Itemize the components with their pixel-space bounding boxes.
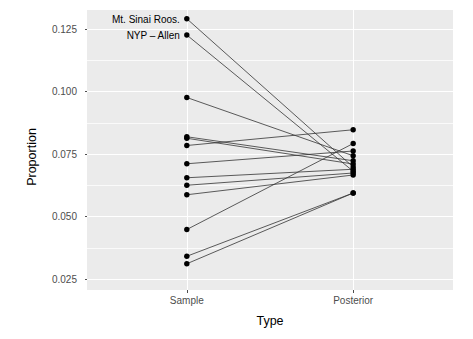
data-point-sample-7 <box>184 175 189 180</box>
slope-segment-8 <box>187 173 353 185</box>
slope-segment-0 <box>187 19 353 167</box>
annotation-label-1: NYP – Allen <box>127 30 180 41</box>
slope-segment-5 <box>187 130 353 146</box>
data-point-sample-10 <box>184 227 189 232</box>
data-point-sample-12 <box>184 261 189 266</box>
data-point-posterior-12 <box>350 190 355 195</box>
slope-segment-10 <box>187 144 353 230</box>
data-point-sample-5 <box>184 143 189 148</box>
data-point-posterior-4 <box>350 161 355 166</box>
data-point-posterior-9 <box>350 172 355 177</box>
slope-segments <box>187 19 353 264</box>
annotation-label-0: Mt. Sinai Roos. <box>112 13 180 24</box>
data-point-posterior-6 <box>350 148 355 153</box>
slope-segment-11 <box>187 193 353 256</box>
slope-segment-12 <box>187 193 353 264</box>
slope-segment-7 <box>187 169 353 178</box>
y-axis-title: Proportion <box>25 97 39 217</box>
slope-chart-figure: 0.0250.0500.0750.1000.125 SamplePosterio… <box>0 0 473 339</box>
data-point-sample-6 <box>184 161 189 166</box>
data-point-sample-11 <box>184 254 189 259</box>
data-point-posterior-10 <box>350 141 355 146</box>
data-point-posterior-5 <box>350 127 355 132</box>
data-point-sample-0 <box>184 16 189 21</box>
data-point-sample-9 <box>184 192 189 197</box>
slope-segment-9 <box>187 175 353 195</box>
data-point-sample-1 <box>184 32 189 37</box>
slope-segment-2 <box>187 98 353 156</box>
data-point-sample-4 <box>184 136 189 141</box>
data-point-sample-8 <box>184 183 189 188</box>
data-point-sample-2 <box>184 95 189 100</box>
data-point-posterior-2 <box>350 153 355 158</box>
data-layer <box>0 0 473 339</box>
x-axis-title: Type <box>87 314 453 328</box>
